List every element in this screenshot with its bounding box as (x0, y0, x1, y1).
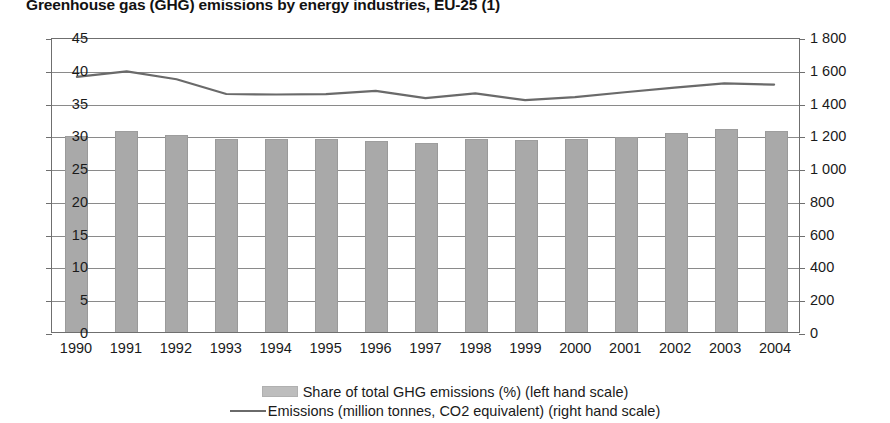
y-tick-right (799, 105, 805, 106)
x-axis-label-1996: 1996 (351, 340, 401, 356)
x-axis-label-1998: 1998 (450, 340, 500, 356)
y-axis-right-tick-label: 800 (810, 195, 834, 210)
y-axis-right-tick-label: 1 600 (810, 64, 846, 79)
y-axis-right-tick-label: 400 (810, 260, 834, 275)
legend-label-line: Emissions (million tonnes, CO2 equivalen… (268, 403, 660, 419)
y-axis-left-tick-label: 20 (72, 195, 88, 210)
x-axis-label-1992: 1992 (151, 340, 201, 356)
y-axis-left-tick-label: 45 (72, 31, 88, 46)
y-axis-right-tick-label: 1 400 (810, 97, 846, 112)
y-tick-right (799, 39, 805, 40)
y-axis-right-tick-label: 1 200 (810, 129, 846, 144)
y-axis-right-tick-label: 600 (810, 228, 834, 243)
x-axis-label-1995: 1995 (301, 340, 351, 356)
legend-row-line: Emissions (million tonnes, CO2 equivalen… (0, 401, 890, 420)
y-axis-left-tick-label: 35 (72, 97, 88, 112)
emissions-polyline (77, 71, 774, 100)
y-axis-left-tick-label: 10 (72, 260, 88, 275)
legend-row-bar: Share of total GHG emissions (%) (left h… (0, 382, 890, 401)
y-axis-right-tick-label: 1 800 (810, 31, 846, 46)
x-axis-label-1990: 1990 (51, 340, 101, 356)
x-axis-label-2000: 2000 (550, 340, 600, 356)
legend-label-bar: Share of total GHG emissions (%) (left h… (303, 384, 629, 400)
x-axis-label-1994: 1994 (251, 340, 301, 356)
x-axis-label-2001: 2001 (600, 340, 650, 356)
x-axis-label-2002: 2002 (650, 340, 700, 356)
y-axis-right-tick-label: 0 (810, 326, 818, 341)
chart-legend: Share of total GHG emissions (%) (left h… (0, 382, 890, 420)
y-tick-right (799, 268, 805, 269)
legend-bar-swatch-icon (262, 386, 298, 397)
line-series-layer (52, 39, 799, 332)
legend-line-swatch-icon (230, 410, 266, 412)
y-axis-right-tick-label: 200 (810, 293, 834, 308)
y-axis-left-tick-label: 30 (72, 129, 88, 144)
x-axis-label-1997: 1997 (401, 340, 451, 356)
y-tick-left (46, 334, 52, 335)
y-tick-right (799, 334, 805, 335)
plot-area (51, 38, 800, 333)
y-tick-right (799, 170, 805, 171)
y-axis-left-tick-label: 40 (72, 64, 88, 79)
y-tick-right (799, 236, 805, 237)
x-axis-label-1991: 1991 (101, 340, 151, 356)
y-axis-left-tick-label: 25 (72, 162, 88, 177)
x-axis-label-2003: 2003 (700, 340, 750, 356)
x-axis-labels: 1990199119921993199419951996199719981999… (51, 340, 800, 362)
y-axis-left-tick-label: 5 (80, 293, 88, 308)
y-tick-right (799, 301, 805, 302)
y-axis-left-tick-label: 15 (72, 228, 88, 243)
x-axis-label-1993: 1993 (201, 340, 251, 356)
y-tick-right (799, 203, 805, 204)
chart-title: Greenhouse gas (GHG) emissions by energy… (26, 0, 500, 14)
x-axis-label-1999: 1999 (500, 340, 550, 356)
chart-container: Greenhouse gas (GHG) emissions by energy… (0, 0, 890, 423)
y-axis-right-tick-label: 1 000 (810, 162, 846, 177)
x-axis-label-2004: 2004 (750, 340, 800, 356)
y-tick-right (799, 137, 805, 138)
y-axis-left-tick-label: 0 (80, 326, 88, 341)
y-tick-right (799, 72, 805, 73)
line-series-svg (52, 39, 799, 332)
